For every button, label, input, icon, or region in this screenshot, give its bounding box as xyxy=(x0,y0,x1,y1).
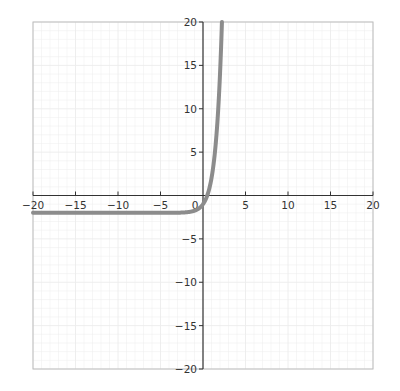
y-tick-label: −5 xyxy=(182,233,197,245)
x-tick-label: 15 xyxy=(324,199,337,211)
x-tick-label: −10 xyxy=(107,199,129,211)
y-tick-label: −10 xyxy=(175,276,197,288)
y-tick-label: −15 xyxy=(175,320,197,332)
y-tick-label: 20 xyxy=(184,16,197,28)
y-tick-label: 15 xyxy=(184,59,197,71)
y-tick-label: 5 xyxy=(190,146,197,158)
x-tick-label: −15 xyxy=(64,199,86,211)
x-tick-label: 10 xyxy=(281,199,294,211)
x-tick-label: 20 xyxy=(366,199,379,211)
x-tick-label: −5 xyxy=(153,199,168,211)
function-plot: −20−15−10−55101520−20−15−10−551015200 xyxy=(0,0,400,391)
x-tick-label: −20 xyxy=(22,199,44,211)
x-tick-label: 5 xyxy=(242,199,249,211)
y-tick-label: 10 xyxy=(184,103,197,115)
y-tick-label: −20 xyxy=(175,363,197,375)
